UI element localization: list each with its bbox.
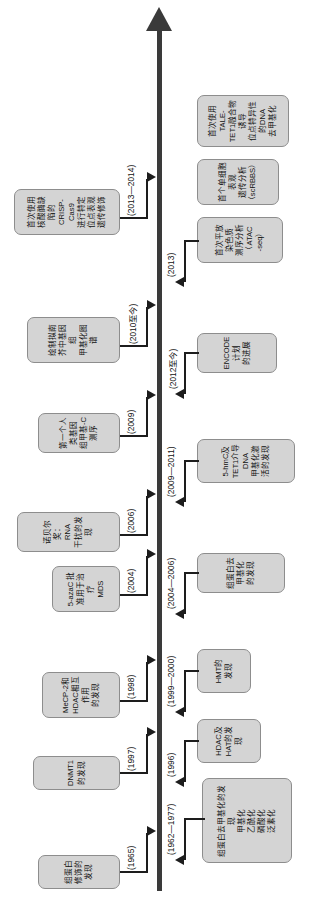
connector-tip-above-4	[147, 489, 156, 499]
connector-arm-above-6	[146, 307, 148, 347]
connector-arm-above-5	[146, 397, 148, 437]
connector-stem-above-3	[120, 594, 147, 596]
connector-tip-above-3	[147, 549, 156, 559]
event-box-below-extra-1[interactable]: 首次使用TALE- TET1融合物诱导 位点特异性的DNA 去甲基化	[197, 95, 289, 147]
connector-arm-above-4	[146, 496, 148, 536]
year-label-below-0: (1962—1977)	[166, 804, 176, 855]
event-box-below-2[interactable]: HMT的 发现	[197, 649, 251, 693]
connector-stem-below-0	[185, 818, 205, 820]
connector-tip-above-6	[147, 300, 156, 310]
connector-arm-below-5	[184, 352, 186, 394]
event-box-above-2[interactable]: MeCP-2和 HDAC相互作用 的发现	[42, 672, 120, 718]
connector-stem-above-1	[120, 772, 147, 774]
year-label-below-5: (2012至今)	[166, 349, 178, 389]
connector-tip-above-0	[147, 826, 156, 836]
event-box-above-0[interactable]: 组蛋白修饰的发现	[38, 855, 120, 889]
event-box-above-5[interactable]: 第一个人类基因 组甲基-C测序	[38, 413, 120, 453]
connector-tip-below-3	[175, 609, 184, 619]
event-box-below-3[interactable]: 组蛋白去甲基化 的发现	[197, 553, 285, 593]
year-label-above-0: (1965)	[126, 846, 136, 870]
year-label-below-4: (2009—2011)	[166, 446, 176, 497]
connector-arm-below-1	[184, 740, 186, 782]
rotation-wrapper: 组蛋白修饰的发现 (1965) DNMT1的发现 (1997) MeCP-2和 …	[0, 0, 330, 915]
event-box-below-4[interactable]: 5-hmC及TET1介导DNA 甲基化激活的发现	[197, 439, 295, 483]
event-box-below-6[interactable]: 首次平放染色质 测序分析（ATAC -seq）	[197, 217, 283, 263]
year-label-below-3: (2004—2006)	[166, 558, 176, 609]
timeline-axis-arrowhead	[146, 7, 172, 31]
year-label-above-4: (2006)	[126, 509, 136, 533]
connector-stem-below-3	[185, 572, 199, 574]
connector-arm-above-0	[146, 833, 148, 873]
year-label-below-6: (2013)	[166, 253, 176, 277]
connector-tip-below-1	[175, 777, 184, 787]
connector-arm-above-3	[146, 556, 148, 596]
connector-stem-above-5	[120, 435, 147, 437]
connector-stem-below-6	[185, 240, 199, 242]
connector-stem-above-0	[120, 871, 147, 873]
connector-stem-above-7	[120, 217, 147, 219]
event-box-above-3[interactable]: 5-azaC 批 准用于治疗 MDS	[52, 566, 120, 612]
connector-arm-below-0	[184, 818, 186, 860]
event-box-above-1[interactable]: DNMT1的发现	[33, 756, 120, 790]
connector-arm-below-3	[184, 572, 186, 614]
year-label-above-5: (2009)	[126, 410, 136, 434]
connector-stem-below-2	[185, 670, 199, 672]
connector-tip-below-2	[175, 707, 184, 717]
connector-stem-above-2	[120, 700, 147, 702]
event-box-above-4[interactable]: 诺贝尔奖：RNA 干扰的发现	[17, 512, 120, 552]
connector-tip-below-0	[175, 855, 184, 865]
connector-stem-below-5	[185, 352, 199, 354]
event-box-below-extra-0[interactable]: 首个单细胞表观 遗传分析 （scRBBS）	[197, 159, 279, 205]
event-box-below-0[interactable]: 组蛋白去甲基化的发现 甲基化 乙酰化 磷酸化 泛素化	[202, 778, 292, 863]
year-label-above-2: (1998)	[126, 675, 136, 699]
connector-tip-above-1	[147, 727, 156, 737]
connector-arm-above-2	[146, 662, 148, 702]
connector-stem-above-4	[120, 534, 147, 536]
connector-arm-below-4	[184, 460, 186, 502]
year-label-below-1: (1996)	[166, 753, 176, 777]
event-box-below-1[interactable]: HDAC及 HAT的发 现	[197, 719, 261, 763]
connector-stem-below-4	[185, 460, 199, 462]
connector-arm-above-1	[146, 734, 148, 774]
timeline-figure: 组蛋白修饰的发现 (1965) DNMT1的发现 (1997) MeCP-2和 …	[0, 0, 330, 915]
connector-tip-above-5	[147, 390, 156, 400]
connector-arm-below-2	[184, 670, 186, 712]
connector-tip-below-6	[175, 277, 184, 287]
year-label-above-3: (2004)	[126, 569, 136, 593]
year-label-above-6: (2010至今)	[126, 304, 138, 344]
event-box-below-5[interactable]: ENCODE计划 的进展	[197, 333, 277, 373]
timeline-axis	[157, 23, 162, 891]
connector-arm-below-6	[184, 240, 186, 282]
connector-tip-above-2	[147, 655, 156, 665]
connector-tip-below-4	[175, 497, 184, 507]
connector-stem-below-1	[185, 740, 199, 742]
connector-stem-above-6	[120, 345, 147, 347]
year-label-above-1: (1997)	[126, 747, 136, 771]
connector-tip-above-7	[147, 172, 156, 182]
connector-arm-above-7	[146, 179, 148, 219]
connector-tip-below-5	[175, 389, 184, 399]
event-box-above-7[interactable]: 首次使用核酸酶缺陷的CRISP-Cas9 进行特定位点表观遗传修饰	[14, 189, 120, 235]
year-label-below-2: (1999—2000)	[166, 656, 176, 707]
event-box-above-6[interactable]: 绘制拟南芥中基因组 甲基化图谱	[27, 317, 120, 363]
year-label-above-7: (2013—2014)	[126, 165, 136, 216]
